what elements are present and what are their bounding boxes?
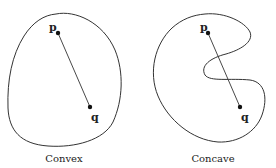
convex-panel: p q Convex <box>8 13 121 164</box>
convex-segment-pq <box>58 33 90 107</box>
convex-label-q: q <box>91 111 99 124</box>
concave-panel: p q Concave <box>153 14 265 164</box>
convex-concave-diagram: p q Convex p q Concave <box>0 0 276 168</box>
convex-label-p: p <box>49 21 57 34</box>
concave-label-p: p <box>200 21 208 34</box>
concave-label-q: q <box>241 111 249 124</box>
concave-segment-pq <box>208 33 240 107</box>
concave-point-q <box>238 105 242 109</box>
convex-shape-outline <box>8 13 121 146</box>
concave-title: Concave <box>191 153 234 164</box>
convex-point-q <box>88 105 92 109</box>
convex-title: Convex <box>45 153 83 164</box>
